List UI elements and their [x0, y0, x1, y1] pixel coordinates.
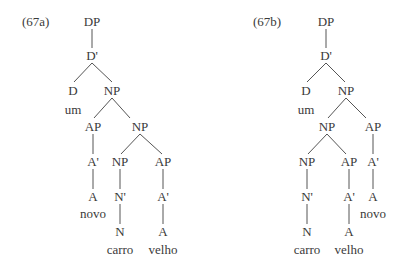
terminal-word-67a: um: [65, 103, 82, 117]
tree-node-67b: NP: [299, 155, 316, 169]
tree-node-67b: D': [320, 49, 332, 63]
branch-67a-1: [74, 63, 92, 82]
branch-67a-3: [94, 98, 112, 118]
example-label-67b: (67b): [253, 15, 281, 29]
tree-node-67a: AP: [155, 155, 172, 169]
terminal-word-67a: velho: [149, 243, 178, 257]
terminal-word-67a: novo: [80, 207, 106, 221]
tree-node-67a: D: [68, 84, 77, 98]
tree-node-67a: A: [88, 190, 97, 204]
branch-67b-4: [346, 98, 366, 118]
branch-67b-8: [327, 134, 346, 154]
tree-node-67a: N': [114, 190, 126, 204]
terminal-word-67b: um: [298, 103, 315, 117]
tree-node-67b: D: [301, 84, 310, 98]
branch-67b-2: [326, 63, 345, 82]
tree-node-67a: A': [87, 155, 99, 169]
branch-67b-3: [328, 98, 346, 118]
tree-node-67a: N: [115, 225, 124, 239]
tree-node-67b: A: [368, 190, 377, 204]
tree-node-67b: A': [343, 190, 355, 204]
tree-node-67a: A: [158, 225, 167, 239]
tree-branches: [0, 0, 410, 261]
terminal-word-67b: velho: [335, 243, 364, 257]
tree-node-67a: NP: [112, 155, 129, 169]
syntax-tree-figure: (67a)DPD'DumNPAPNPA'AnovoNPN'NcarroAPA'A…: [0, 0, 410, 261]
tree-node-67b: NP: [319, 120, 336, 134]
tree-node-67a: D': [86, 49, 98, 63]
branch-67b-1: [307, 63, 326, 82]
example-label-67a: (67a): [22, 15, 49, 29]
tree-node-67a: A': [157, 190, 169, 204]
terminal-word-67b: novo: [360, 207, 386, 221]
terminal-word-67a: carro: [107, 243, 134, 257]
branch-67b-7: [308, 134, 327, 154]
branch-67a-2: [92, 63, 112, 82]
tree-node-67a: DP: [84, 15, 101, 29]
tree-node-67b: N': [301, 190, 313, 204]
tree-node-67a: NP: [132, 120, 149, 134]
branch-67a-7: [121, 134, 140, 154]
tree-node-67a: NP: [104, 84, 121, 98]
tree-node-67b: AP: [341, 155, 358, 169]
terminal-word-67b: carro: [294, 243, 321, 257]
tree-node-67b: A': [367, 155, 379, 169]
tree-node-67a: AP: [85, 120, 102, 134]
tree-node-67b: N: [302, 225, 311, 239]
tree-node-67b: AP: [365, 120, 382, 134]
branch-67a-8: [140, 134, 162, 154]
tree-node-67b: NP: [338, 84, 355, 98]
branch-67a-4: [112, 98, 130, 118]
tree-node-67b: A: [344, 225, 353, 239]
tree-node-67b: DP: [318, 15, 335, 29]
